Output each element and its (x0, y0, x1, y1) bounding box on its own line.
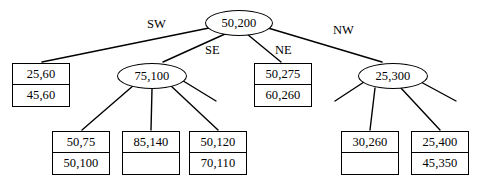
leaf-value: 85,140 (134, 136, 169, 149)
leaf-cell-top: 85,140 (123, 132, 179, 153)
leaf-cell-bottom: 45,350 (412, 153, 468, 174)
leaf-value: 60,260 (266, 89, 301, 102)
edge-label-ne: NE (275, 44, 292, 57)
leaf-node-85140[interactable]: 85,140 (122, 131, 180, 175)
edge-nw-stub-left (335, 82, 364, 101)
leaf-node-25400[interactable]: 25,400 45,350 (411, 131, 469, 175)
edge-root-sw (42, 28, 209, 62)
edge-label-se: SE (205, 44, 220, 57)
edge-nw-a (370, 88, 375, 130)
node-sw-internal-label: 75,100 (135, 70, 170, 83)
leaf-cell-bottom: 45,60 (13, 85, 69, 106)
leaf-value: 50,75 (67, 136, 96, 149)
leaf-cell-top: 50,75 (53, 132, 109, 153)
leaf-node-sw[interactable]: 25,60 45,60 (12, 63, 70, 107)
leaf-cell-bottom: 70,110 (190, 153, 246, 174)
leaf-value: 45,60 (27, 89, 56, 102)
leaf-cell-top: 30,260 (342, 132, 398, 153)
leaf-value: 50,100 (64, 157, 99, 170)
leaf-cell-top: 25,60 (13, 64, 69, 85)
node-nw-internal-label: 25,300 (376, 70, 411, 83)
leaf-value: 25,60 (27, 68, 56, 81)
leaf-cell-top: 50,120 (190, 132, 246, 153)
node-sw-internal[interactable]: 75,100 (117, 63, 187, 89)
leaf-value: 45,350 (423, 157, 458, 170)
quadtree-diagram: 50,200 75,100 25,300 25,60 45,60 50,275 … (0, 0, 479, 193)
edge-sw-b (151, 89, 152, 130)
node-root[interactable]: 50,200 (205, 10, 273, 36)
edge-nw-b (400, 87, 440, 130)
leaf-cell-bottom (342, 153, 398, 174)
node-root-label: 50,200 (222, 17, 257, 30)
leaf-cell-bottom: 50,100 (53, 153, 109, 174)
leaf-node-ne[interactable]: 50,275 60,260 (254, 63, 312, 107)
leaf-cell-bottom (123, 153, 179, 174)
leaf-value: 50,275 (266, 68, 301, 81)
leaf-cell-top: 50,275 (255, 64, 311, 85)
leaf-node-5075[interactable]: 50,75 50,100 (52, 131, 110, 175)
node-nw-internal[interactable]: 25,300 (358, 63, 428, 89)
leaf-cell-bottom: 60,260 (255, 85, 311, 106)
leaf-value: 70,110 (201, 157, 236, 170)
leaf-value: 30,260 (353, 136, 388, 149)
leaf-value: 50,120 (201, 136, 236, 149)
edge-sw-a (82, 85, 134, 130)
leaf-value: 25,400 (423, 136, 458, 149)
leaf-node-30260[interactable]: 30,260 (341, 131, 399, 175)
leaf-cell-top: 25,400 (412, 132, 468, 153)
edge-label-sw: SW (147, 18, 166, 31)
edge-sw-c (170, 85, 218, 130)
edge-label-nw: NW (333, 24, 354, 37)
edge-sw-stub (180, 79, 216, 101)
leaf-node-50120[interactable]: 50,120 70,110 (189, 131, 247, 175)
edge-nw-stub-right (419, 81, 456, 101)
